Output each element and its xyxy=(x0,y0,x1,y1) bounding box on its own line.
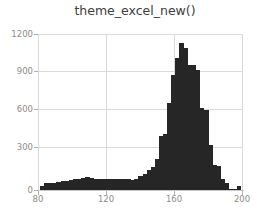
gridline-y-600 xyxy=(38,109,243,110)
chart-figure: theme_excel_new() 1200 900 600 300 0 80 … xyxy=(0,0,270,218)
x-axis-line xyxy=(38,190,244,191)
y-tick-label-600: 600 xyxy=(3,105,33,114)
x-tick-label-200: 200 xyxy=(222,194,262,204)
y-tick-label-900: 900 xyxy=(3,67,33,76)
gridline-x-200 xyxy=(242,34,243,190)
x-tick-label-80: 80 xyxy=(18,194,58,204)
y-tick-label-300: 300 xyxy=(3,143,33,152)
y-axis-tick-labels: 1200 900 600 300 0 xyxy=(0,0,33,218)
gridline-y-1200 xyxy=(38,34,243,35)
chart-title: theme_excel_new() xyxy=(0,3,270,18)
x-tick-label-160: 160 xyxy=(154,194,194,204)
gridline-x-120 xyxy=(106,34,107,190)
y-tick-label-1200: 1200 xyxy=(3,30,33,39)
x-tick-label-120: 120 xyxy=(86,194,126,204)
gridline-x-80 xyxy=(38,34,39,190)
plot-area xyxy=(38,34,243,190)
histogram-bar xyxy=(237,186,242,190)
gridline-y-900 xyxy=(38,71,243,72)
